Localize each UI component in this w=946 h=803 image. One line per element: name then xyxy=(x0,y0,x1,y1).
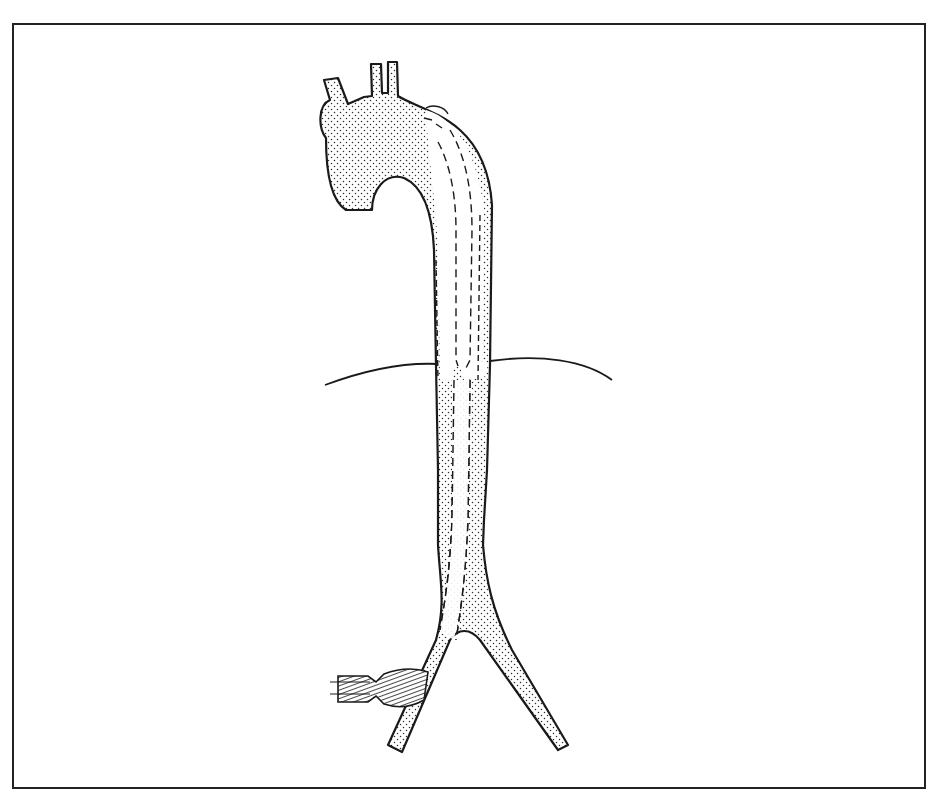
figure-canvas xyxy=(0,0,946,803)
aorta-illustration xyxy=(0,0,946,803)
delivery-sheath xyxy=(330,669,428,706)
